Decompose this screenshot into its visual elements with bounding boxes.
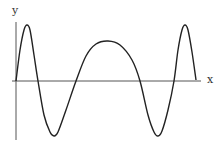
x-axis-label: x (207, 74, 213, 85)
plot-area (0, 0, 222, 148)
y-axis-label: y (12, 5, 18, 16)
